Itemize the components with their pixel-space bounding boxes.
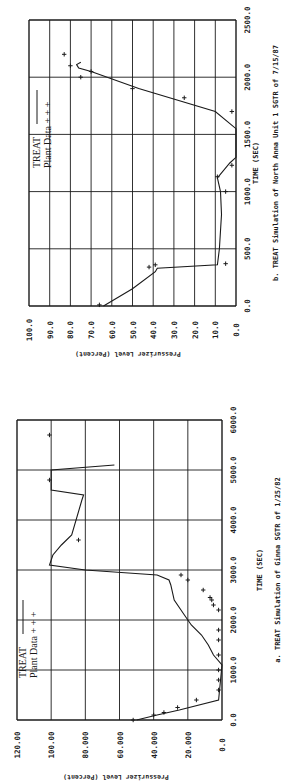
plant-data-marker <box>68 64 72 68</box>
plant-data-marker <box>179 573 183 577</box>
legend-label-plant-data: Plant Data + + + <box>42 101 53 168</box>
y-tick-label: 20.000 <box>184 731 193 759</box>
plant-data-marker <box>201 588 205 592</box>
x-tick-label: 3000.0 <box>229 556 238 584</box>
y-tick-label: 50.0 <box>129 320 138 339</box>
y-tick-label: 80.000 <box>81 731 90 759</box>
y-tick-label: 120.00 <box>13 731 22 759</box>
plant-data-marker <box>186 578 190 582</box>
plant-data-marker <box>216 608 220 612</box>
plant-data-marker <box>216 638 220 642</box>
y-tick-label: 90.0 <box>46 320 55 339</box>
y-tick-label: 60.000 <box>116 731 125 759</box>
x-tick-label: 0.0 <box>243 299 252 313</box>
plant-data-marker <box>62 52 66 56</box>
legend-label-treat: TREAT <box>17 647 28 678</box>
y-axis-title: Pressurizer Level (Percent) <box>75 350 181 358</box>
y-tick-label: 30.0 <box>170 320 179 339</box>
figure-caption: a. TREAT Simulation of Ginna SGTR of 1/2… <box>274 477 282 662</box>
y-tick-label: 10.0 <box>211 320 220 339</box>
figure-canvas: 0.010.020.030.040.050.060.070.080.090.01… <box>0 0 290 782</box>
plant-data-marker <box>175 705 179 709</box>
x-tick-label: 2500.0 <box>243 6 252 34</box>
y-tick-label: 70.0 <box>87 320 96 339</box>
chart-north-anna: 0.010.020.030.040.050.060.070.080.090.01… <box>25 6 280 358</box>
plant-data-marker <box>211 603 215 607</box>
plant-data-marker <box>182 96 186 100</box>
plant-data-marker <box>216 668 220 672</box>
plant-data-marker <box>89 69 93 73</box>
plant-data-marker <box>131 718 135 722</box>
plant-data-marker <box>230 163 234 167</box>
x-tick-label: 0.0 <box>229 713 238 727</box>
plant-data-marker <box>76 538 80 542</box>
y-axis-title: Pressurizer Level (Percent) <box>63 773 169 781</box>
plant-data-marker <box>153 263 157 267</box>
series-line-treat <box>77 62 236 306</box>
y-tick-label: 80.0 <box>66 320 75 339</box>
figure-caption: b. TREAT Simulation of North Anna Unit 1… <box>272 45 280 281</box>
legend-label-treat: TREAT <box>31 137 42 168</box>
y-tick-label: 0.0 <box>218 738 227 752</box>
y-tick-label: 40.0 <box>149 320 158 339</box>
x-tick-label: 1000.0 <box>229 656 238 684</box>
y-tick-label: 20.0 <box>191 320 200 339</box>
x-axis-title: TIME (SEC) <box>256 549 264 591</box>
plant-data-marker <box>194 698 198 702</box>
y-tick-label: 100.00 <box>47 731 56 759</box>
plant-data-marker <box>223 189 227 193</box>
plant-data-marker <box>216 628 220 632</box>
x-tick-label: 500.0 <box>243 237 252 260</box>
x-tick-label: 2000.0 <box>229 606 238 634</box>
x-tick-label: 1500.0 <box>243 120 252 148</box>
x-axis-title: TIME (SEC) <box>252 142 260 184</box>
legend-label-plant-data: Plant Data + + + <box>28 611 39 678</box>
x-tick-label: 2000.0 <box>243 63 252 91</box>
x-tick-label: 6000.0 <box>229 406 238 434</box>
plant-data-marker <box>230 109 234 113</box>
legend: TREATPlant Data + + + <box>31 90 53 168</box>
series-line-treat <box>50 465 223 720</box>
x-tick-label: 4000.0 <box>229 506 238 534</box>
legend: TREATPlant Data + + + <box>17 600 39 678</box>
y-tick-label: 40.000 <box>150 731 159 759</box>
plant-data-marker <box>79 75 83 79</box>
scanned-page: 0.010.020.030.040.050.060.070.080.090.01… <box>0 0 290 782</box>
x-tick-label: 5000.0 <box>229 456 238 484</box>
y-tick-label: 60.0 <box>108 320 117 339</box>
plant-data-marker <box>147 265 151 269</box>
plant-data-marker <box>215 175 219 179</box>
x-tick-label: 1000.0 <box>243 178 252 206</box>
plant-data-marker <box>223 261 227 265</box>
y-tick-label: 0.0 <box>232 323 241 337</box>
y-tick-label: 100.0 <box>25 318 34 341</box>
plant-data-marker <box>216 653 220 657</box>
chart-ginna: 0.020.00040.00060.00080.000100.00120.000… <box>13 406 282 781</box>
